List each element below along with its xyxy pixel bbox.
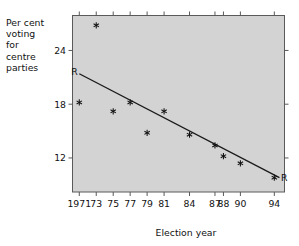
regression-label-end: R (281, 172, 288, 183)
y-tick-label-12: 12 (54, 152, 66, 163)
y-axis-title-line-5: parties (6, 62, 38, 73)
y-tick-label-18: 18 (54, 99, 66, 110)
plot-area-background (73, 16, 285, 193)
x-tick-label-1971: 1971 (67, 198, 91, 209)
chart-figure: R R 197173757779818487889094 121824 Per … (0, 0, 299, 246)
x-axis-tick-labels: 197173757779818487889094 (67, 198, 280, 209)
x-tick-label-84: 84 (184, 198, 196, 209)
x-axis-ticks-bottom (79, 192, 274, 196)
y-tick-label-24: 24 (54, 45, 66, 56)
y-axis-ticks-right (285, 50, 289, 158)
x-tick-label-75: 75 (107, 198, 119, 209)
x-axis-title: Election year (156, 227, 217, 238)
y-axis-title-line-4: centre (6, 51, 36, 62)
x-tick-label-77: 77 (124, 198, 136, 209)
scatter-plot-svg: R R 197173757779818487889094 121824 Per … (0, 0, 299, 246)
x-tick-label-90: 90 (234, 198, 246, 209)
x-axis-ticks-top (79, 12, 274, 16)
x-tick-label-94: 94 (268, 198, 280, 209)
y-axis-title: Per centvotingforcentreparties (6, 17, 44, 74)
x-tick-label-73: 73 (90, 198, 102, 209)
x-tick-label-88: 88 (218, 198, 230, 209)
y-axis-tick-labels: 121824 (54, 45, 66, 164)
y-axis-title-line-2: voting (6, 28, 35, 39)
x-tick-label-79: 79 (141, 198, 153, 209)
y-axis-title-line-1: Per cent (6, 17, 44, 28)
x-tick-label-81: 81 (158, 198, 170, 209)
regression-label-start: R (71, 66, 78, 77)
y-axis-title-line-3: for (6, 39, 19, 50)
